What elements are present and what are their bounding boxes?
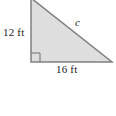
triangle-graphic [0,0,116,116]
vertical-leg-label: 12 ft [3,27,24,38]
horizontal-leg-label: 16 ft [56,64,77,75]
triangle-shape [31,0,112,62]
hypotenuse-label: c [75,17,80,28]
right-triangle-figure: 12 ft 16 ft c [0,0,116,116]
